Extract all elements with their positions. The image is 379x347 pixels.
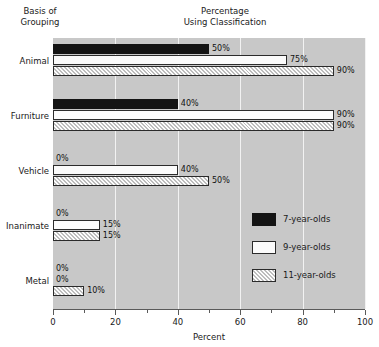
- x-tick-minor: [84, 310, 85, 313]
- x-tick-major: [240, 310, 241, 315]
- bar-value-label: 50%: [212, 44, 230, 54]
- bar-vehicle-11-year-olds[interactable]: [53, 176, 209, 186]
- bar-inanimate-9-year-olds[interactable]: [53, 220, 100, 230]
- x-tick-label: 100: [350, 317, 379, 327]
- bar-inanimate-11-year-olds[interactable]: [53, 231, 100, 241]
- gridline: [303, 38, 304, 309]
- bar-value-label: 0%: [56, 209, 69, 219]
- bar-value-label: 90%: [337, 121, 355, 131]
- x-tick-major: [365, 310, 366, 315]
- x-tick-minor: [334, 310, 335, 313]
- chart-title: Percentage Using Classification: [160, 6, 290, 28]
- bar-value-label: 10%: [87, 286, 105, 296]
- chart-page: Basis of Grouping Percentage Using Class…: [0, 0, 379, 347]
- bar-animal-7-year-olds[interactable]: [53, 44, 209, 54]
- x-tick-label: 60: [225, 317, 255, 327]
- legend-label: 9-year-olds: [283, 242, 330, 252]
- legend-label: 11-year-olds: [283, 270, 336, 280]
- gridline: [240, 38, 241, 309]
- bar-value-label: 0%: [56, 275, 69, 285]
- bar-furniture-9-year-olds[interactable]: [53, 110, 334, 120]
- bar-metal-11-year-olds[interactable]: [53, 286, 84, 296]
- bar-value-label: 15%: [103, 231, 121, 241]
- x-tick-label: 40: [163, 317, 193, 327]
- gridline: [178, 38, 179, 309]
- bar-vehicle-9-year-olds[interactable]: [53, 165, 178, 175]
- category-label-animal: Animal: [0, 56, 49, 66]
- bar-value-label: 0%: [56, 264, 69, 274]
- x-tick-label: 0: [38, 317, 68, 327]
- legend-label: 7-year-olds: [283, 214, 330, 224]
- x-axis-label: Percent: [53, 332, 365, 342]
- bar-value-label: 90%: [337, 110, 355, 120]
- x-tick-minor: [271, 310, 272, 313]
- bar-animal-11-year-olds[interactable]: [53, 66, 334, 76]
- x-tick-major: [53, 310, 54, 315]
- bar-furniture-11-year-olds[interactable]: [53, 121, 334, 131]
- x-tick-label: 20: [100, 317, 130, 327]
- y-axis-caption: Basis of Grouping: [2, 6, 78, 28]
- x-tick-major: [178, 310, 179, 315]
- legend-swatch-9-year-olds: [252, 241, 276, 254]
- x-tick-minor: [147, 310, 148, 313]
- bar-value-label: 90%: [337, 66, 355, 76]
- legend-swatch-11-year-olds: [252, 269, 276, 282]
- x-tick-minor: [209, 310, 210, 313]
- bar-value-label: 75%: [290, 55, 308, 65]
- bar-value-label: 50%: [212, 176, 230, 186]
- gridline: [365, 38, 366, 309]
- bar-value-label: 40%: [181, 165, 199, 175]
- x-tick-label: 80: [288, 317, 318, 327]
- category-label-furniture: Furniture: [0, 111, 49, 121]
- category-label-vehicle: Vehicle: [0, 166, 49, 176]
- bar-value-label: 15%: [103, 220, 121, 230]
- legend-swatch-7-year-olds: [252, 213, 276, 226]
- category-label-inanimate: Inanimate: [0, 221, 49, 231]
- bar-furniture-7-year-olds[interactable]: [53, 99, 178, 109]
- x-tick-major: [115, 310, 116, 315]
- bar-value-label: 0%: [56, 154, 69, 164]
- bar-value-label: 40%: [181, 99, 199, 109]
- category-label-metal: Metal: [0, 276, 49, 286]
- x-tick-major: [303, 310, 304, 315]
- bar-animal-9-year-olds[interactable]: [53, 55, 287, 65]
